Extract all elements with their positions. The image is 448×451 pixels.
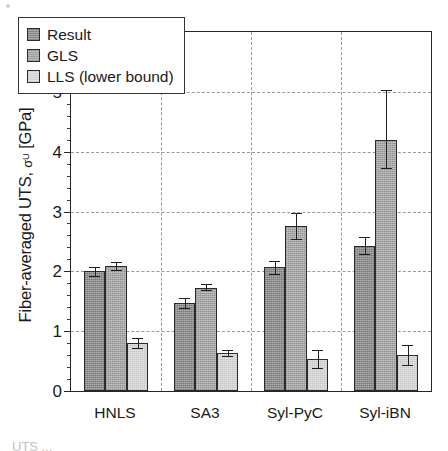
error-bar-cap-lower — [269, 274, 280, 275]
error-bar-cap-upper — [381, 90, 392, 91]
bar-gls-hnls — [105, 266, 127, 391]
error-bar-cap-upper — [402, 345, 413, 346]
error-bar-cap-lower — [201, 290, 212, 291]
error-bar-stem — [365, 237, 366, 254]
y-axis-minor-tick — [67, 164, 71, 165]
y-axis-minor-tick — [67, 176, 71, 177]
error-bar-stem — [185, 298, 186, 308]
y-axis-minor-tick — [67, 283, 71, 284]
error-bar-cap-lower — [132, 348, 143, 349]
error-bar-stem — [386, 90, 387, 168]
x-axis-category-label: SA3 — [190, 404, 219, 422]
y-axis-minor-tick — [67, 223, 71, 224]
y-axis-title-main: Fiber-averaged UTS, — [16, 172, 35, 322]
bar-gls-syl-pyc — [285, 226, 307, 391]
error-bar-cap-lower — [179, 308, 190, 309]
y-axis-minor-tick — [67, 104, 71, 105]
error-bar-stem — [116, 262, 117, 270]
y-axis-title-symbol: σ — [20, 160, 35, 168]
y-axis-minor-tick — [67, 367, 71, 368]
y-axis-minor-tick — [67, 200, 71, 201]
y-axis-minor-tick — [67, 355, 71, 356]
legend-entry-lls: LLS (lower bound) — [27, 66, 174, 87]
error-bar-cap-upper — [269, 261, 280, 262]
error-bar-stem — [275, 261, 276, 274]
bar-result-sa3 — [174, 303, 196, 391]
gridline-vertical — [251, 32, 252, 391]
y-axis-minor-tick — [67, 188, 71, 189]
y-axis-tick-label: 0 — [53, 383, 62, 400]
bar-gls-sa3 — [195, 288, 217, 392]
error-bar-cap-lower — [222, 356, 233, 357]
error-bar-cap-upper — [359, 237, 370, 238]
y-axis-title-superscript: U — [20, 153, 31, 160]
y-axis-minor-tick — [67, 295, 71, 296]
error-bar-stem — [138, 338, 139, 348]
legend-entry-gls: GLS — [27, 45, 174, 66]
error-bar-cap-upper — [201, 284, 212, 285]
y-axis-tick-label: 4 — [53, 143, 62, 160]
bar-result-syl-ibn — [354, 246, 376, 391]
gridline-vertical — [341, 32, 342, 391]
y-axis-minor-tick — [67, 319, 71, 320]
y-axis-minor-tick — [67, 379, 71, 380]
y-axis-minor-tick — [67, 235, 71, 236]
bar-result-hnls — [84, 271, 106, 391]
x-axis-category-label: HNLS — [94, 404, 135, 422]
bar-result-syl-pyc — [264, 267, 286, 391]
error-bar-cap-upper — [291, 213, 302, 214]
legend-entry-result: Result — [27, 24, 174, 45]
y-axis-tick — [64, 331, 71, 332]
y-axis-minor-tick — [67, 128, 71, 129]
error-bar-cap-lower — [291, 239, 302, 240]
figure-caption-sliver: UTS ... — [12, 440, 442, 451]
error-bar-stem — [95, 267, 96, 275]
error-bar-cap-lower — [381, 168, 392, 169]
x-axis-category-label: Syl-iBN — [359, 404, 411, 422]
y-axis-minor-tick — [67, 247, 71, 248]
y-axis-tick — [64, 271, 71, 272]
chart-legend: Result GLS LLS (lower bound) — [18, 17, 185, 94]
legend-swatch-result — [27, 28, 40, 41]
y-axis-title-units: [GPa] — [16, 108, 35, 149]
y-axis-minor-tick — [67, 343, 71, 344]
legend-swatch-lls — [27, 70, 40, 83]
error-bar-cap-lower — [402, 365, 413, 366]
bar-lls-lower-bound-sa3 — [217, 353, 239, 391]
y-axis-minor-tick — [67, 259, 71, 260]
error-bar-cap-upper — [179, 298, 190, 299]
y-axis-minor-tick — [67, 140, 71, 141]
x-axis-category-label: Syl-PyC — [267, 404, 323, 422]
y-axis-tick-label: 3 — [53, 203, 62, 220]
error-bar-cap-upper — [132, 338, 143, 339]
y-axis-minor-tick — [67, 307, 71, 308]
bar-gls-syl-ibn — [375, 140, 397, 391]
y-axis-tick-label: 1 — [53, 323, 62, 340]
bar-lls-lower-bound-hnls — [127, 343, 149, 391]
scan-artifact-dot — [6, 4, 10, 8]
y-axis-tick — [64, 391, 71, 392]
error-bar-cap-upper — [222, 350, 233, 351]
error-bar-stem — [408, 345, 409, 365]
error-bar-cap-lower — [89, 276, 100, 277]
legend-label-lls: LLS (lower bound) — [47, 69, 174, 85]
error-bar-cap-lower — [359, 254, 370, 255]
error-bar-cap-upper — [312, 350, 323, 351]
error-bar-stem — [296, 213, 297, 239]
error-bar-cap-lower — [312, 368, 323, 369]
error-bar-stem — [318, 350, 319, 368]
y-axis-tick-label: 2 — [53, 263, 62, 280]
error-bar-cap-upper — [111, 262, 122, 263]
legend-label-gls: GLS — [47, 48, 78, 64]
chart-page: Fiber-averaged UTS, σU [GPa] 0123456 Res… — [0, 0, 448, 451]
legend-label-result: Result — [47, 27, 91, 43]
y-axis-minor-tick — [67, 116, 71, 117]
y-axis-tick — [64, 152, 71, 153]
y-axis-tick — [64, 212, 71, 213]
error-bar-cap-upper — [89, 267, 100, 268]
legend-swatch-gls — [27, 49, 40, 62]
error-bar-cap-lower — [111, 270, 122, 271]
